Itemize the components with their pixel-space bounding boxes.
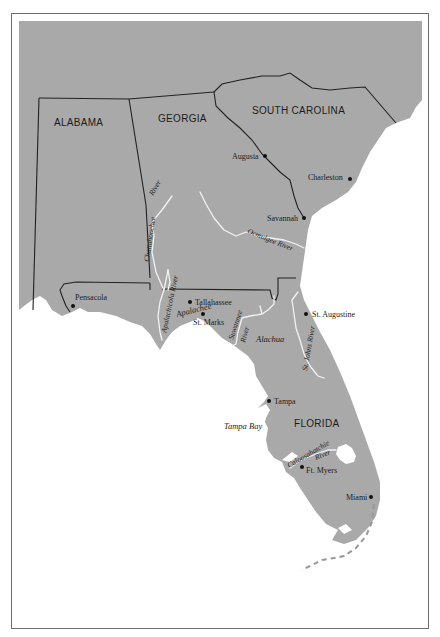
city-dot-ft-myers [300, 465, 304, 469]
city-label-miami: Miami [346, 493, 368, 502]
city-label-st-augustine: St. Augustine [312, 310, 356, 319]
city-label-pensacola: Pensacola [75, 293, 107, 302]
city-dot-tampa [267, 399, 271, 403]
city-dot-tallahassee [188, 300, 192, 304]
city-dot-pensacola [71, 304, 75, 308]
city-label-tampa: Tampa [274, 397, 296, 406]
region-label-tampa-bay: Tampa Bay [224, 421, 262, 431]
city-label-savannah: Savannah [267, 214, 298, 223]
city-label-augusta: Augusta [232, 152, 259, 161]
state-label-south-carolina: SOUTH CAROLINA [252, 105, 345, 116]
city-label-charleston: Charleston [308, 173, 343, 182]
state-label-georgia: GEORGIA [158, 113, 207, 124]
city-dot-savannah [302, 216, 306, 220]
city-dot-st-augustine [304, 312, 308, 316]
state-label-florida: FLORIDA [294, 418, 339, 429]
city-label-ft-myers: Ft. Myers [306, 466, 337, 475]
city-dot-charleston [348, 177, 352, 181]
city-label-st-marks: St. Marks [193, 318, 224, 327]
state-label-alabama: ALABAMA [54, 117, 103, 128]
southeast-map: ALABAMA GEORGIA SOUTH CAROLINA FLORIDA A… [0, 0, 440, 637]
city-dot-miami [369, 495, 373, 499]
city-dot-augusta [263, 154, 267, 158]
region-label-alachua: Alachua [255, 334, 284, 344]
